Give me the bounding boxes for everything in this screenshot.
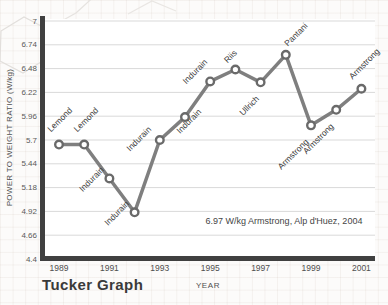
x-axis-tick-label: 1999 bbox=[302, 263, 321, 273]
y-axis-tick-label: 5.18 bbox=[21, 183, 37, 192]
x-axis-tick-label: 1991 bbox=[100, 263, 119, 273]
data-point-marker bbox=[307, 122, 315, 130]
data-point-marker bbox=[206, 78, 214, 86]
y-axis-tick-label: 6.74 bbox=[21, 40, 37, 49]
data-point-marker bbox=[55, 141, 63, 149]
x-axis-tick-label: 1993 bbox=[150, 263, 169, 273]
data-point-marker bbox=[131, 209, 139, 217]
data-point-marker bbox=[358, 85, 366, 93]
y-axis-tick-label: 5.96 bbox=[21, 112, 37, 121]
y-axis-line bbox=[40, 16, 45, 261]
y-axis-tick-label: 4.4 bbox=[26, 255, 38, 264]
data-point-marker bbox=[106, 175, 114, 183]
y-axis-tick-label: 7 bbox=[33, 17, 38, 26]
data-point-marker bbox=[80, 141, 88, 149]
y-axis-tick-label: 4.92 bbox=[21, 207, 37, 216]
data-point-marker bbox=[232, 66, 240, 74]
tucker-graph-chart: 76.746.486.225.965.75.445.184.924.664.41… bbox=[0, 0, 388, 305]
chart-canvas: 76.746.486.225.965.75.445.184.924.664.41… bbox=[0, 0, 388, 305]
x-axis-tick-label: 2001 bbox=[352, 263, 371, 273]
x-axis-tick-label: 1989 bbox=[50, 263, 69, 273]
y-axis-tick-label: 4.66 bbox=[21, 231, 37, 240]
y-axis-tick-label: 6.48 bbox=[21, 64, 37, 73]
chart-title: Tucker Graph bbox=[42, 276, 143, 293]
y-axis-tick-label: 5.7 bbox=[26, 136, 38, 145]
y-axis-label: POWER TO WEIGHT RATIO (W/kg) bbox=[5, 13, 14, 263]
x-axis-label: YEAR bbox=[183, 281, 233, 290]
data-point-marker bbox=[257, 79, 265, 87]
data-point-marker bbox=[156, 136, 164, 144]
data-point-marker bbox=[332, 106, 340, 114]
data-point-marker bbox=[282, 51, 290, 59]
y-axis-tick-label: 6.22 bbox=[21, 88, 37, 97]
x-axis-tick-label: 1995 bbox=[201, 263, 220, 273]
x-axis-line bbox=[40, 256, 375, 261]
y-axis-tick-label: 5.44 bbox=[21, 159, 37, 168]
chart-annotation: 6.97 W/kg Armstrong, Alp d'Huez, 2004 bbox=[198, 216, 370, 226]
x-axis-tick-label: 1997 bbox=[251, 263, 270, 273]
